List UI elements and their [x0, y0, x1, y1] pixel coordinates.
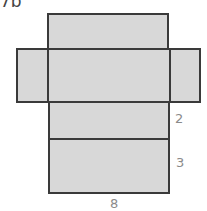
face-top — [47, 13, 169, 50]
dimension-width-label: 3 — [176, 155, 184, 170]
dimension-length-label: 8 — [110, 196, 118, 211]
face-bottom — [48, 138, 170, 194]
face-middle-band — [48, 101, 170, 140]
face-left-flap — [16, 48, 50, 103]
face-right-flap — [169, 48, 201, 103]
face-center — [47, 48, 171, 103]
dimension-height-label: 2 — [175, 111, 183, 126]
problem-label: 7b — [0, 0, 22, 11]
